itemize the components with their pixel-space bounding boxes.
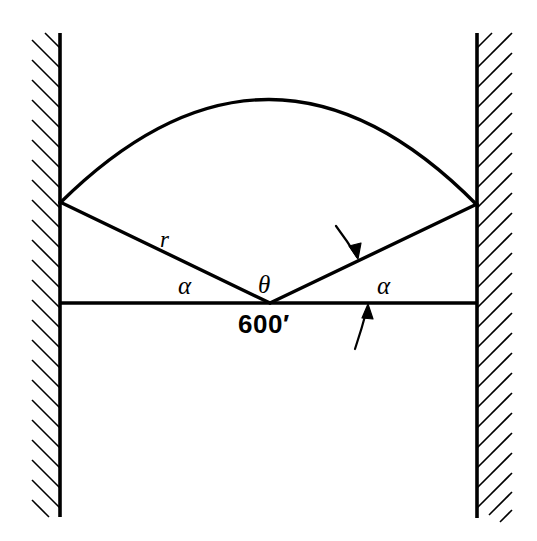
arrow-to-radius-icon bbox=[336, 226, 361, 259]
angle-theta-label: θ bbox=[258, 272, 270, 297]
chord-dimension-label: 600′ bbox=[238, 311, 290, 337]
radius-label: r bbox=[160, 228, 169, 251]
arrow-to-chord-icon bbox=[355, 304, 373, 349]
arc-curve bbox=[60, 99, 477, 205]
radius-line-left bbox=[60, 202, 270, 303]
left-wall-hatching bbox=[32, 33, 60, 517]
radius-line-right bbox=[270, 204, 477, 303]
figure-canvas: r α θ α 600′ bbox=[0, 0, 537, 541]
angle-alpha-right-label: α bbox=[377, 273, 390, 298]
right-wall-hatching bbox=[477, 33, 512, 522]
angle-alpha-left-label: α bbox=[178, 273, 191, 298]
